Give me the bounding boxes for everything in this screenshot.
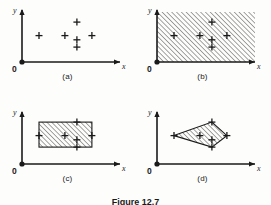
x-axis-label: x: [121, 62, 126, 71]
data-point: [36, 32, 43, 39]
panel-c: 0 x y (c): [0, 100, 135, 200]
panel-a-plot: 0 x y: [0, 0, 135, 100]
y-axis-arrowhead: [19, 111, 24, 117]
panel-b: 0 x y (b): [135, 0, 270, 100]
panel-a-label: (a): [0, 72, 135, 81]
panel-d: 0 x y (d): [135, 100, 270, 200]
x-axis-label: x: [256, 164, 261, 173]
figure-container: 0 x y (a): [0, 0, 271, 205]
origin-dot: [19, 59, 24, 64]
figure-caption: Figure 12.7: [0, 197, 271, 205]
origin-dot: [154, 59, 159, 64]
data-point: [171, 132, 178, 139]
y-axis-arrowhead: [154, 111, 159, 117]
x-axis-arrowhead: [114, 59, 120, 64]
y-axis-arrowhead: [19, 9, 24, 15]
x-axis-label: x: [256, 62, 261, 71]
y-axis-label: y: [147, 108, 152, 117]
panel-c-label: (c): [0, 174, 135, 183]
origin-dot: [154, 161, 159, 166]
x-axis-label: x: [121, 164, 126, 173]
data-point: [73, 44, 80, 51]
x-axis-arrowhead: [249, 161, 255, 166]
x-axis-arrowhead: [114, 161, 120, 166]
panel-a: 0 x y (a): [0, 0, 135, 100]
data-point: [73, 19, 80, 26]
panel-b-label: (b): [135, 72, 270, 81]
quadrant-region: [157, 12, 255, 62]
y-axis-label: y: [12, 108, 17, 117]
data-point: [61, 32, 68, 39]
panel-d-plot: 0 x y: [135, 100, 270, 200]
panel-b-plot: 0 x y: [135, 0, 270, 100]
panel-d-label: (d): [135, 174, 270, 183]
y-axis-label: y: [12, 6, 17, 15]
y-axis-label: y: [147, 6, 152, 15]
panel-c-plot: 0 x y: [0, 100, 135, 200]
data-point: [88, 32, 95, 39]
origin-dot: [19, 161, 24, 166]
data-points: [36, 19, 96, 51]
data-point: [73, 36, 80, 43]
